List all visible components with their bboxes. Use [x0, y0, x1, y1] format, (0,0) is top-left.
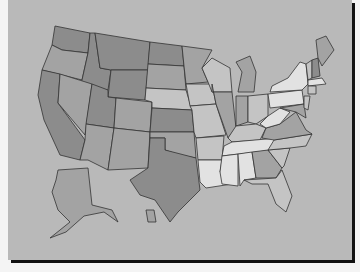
state-ks[interactable] — [150, 108, 194, 132]
state-ct[interactable] — [308, 86, 316, 94]
state-ny[interactable] — [270, 62, 308, 92]
state-mi[interactable] — [236, 56, 256, 92]
state-ar[interactable] — [196, 136, 224, 160]
state-hi[interactable] — [146, 210, 156, 222]
state-nj[interactable] — [304, 96, 310, 110]
state-in[interactable] — [236, 96, 248, 126]
state-wy[interactable] — [108, 70, 148, 100]
state-sd[interactable] — [146, 64, 186, 90]
state-nd[interactable] — [148, 42, 184, 66]
state-ms[interactable] — [220, 154, 238, 186]
state-nm[interactable] — [108, 128, 150, 170]
state-co[interactable] — [114, 98, 152, 132]
state-ne[interactable] — [145, 88, 192, 110]
us-map — [0, 0, 360, 272]
state-ma[interactable] — [308, 78, 326, 86]
state-mt[interactable] — [95, 33, 150, 70]
state-nh[interactable] — [312, 58, 320, 78]
state-ak[interactable] — [50, 168, 118, 238]
